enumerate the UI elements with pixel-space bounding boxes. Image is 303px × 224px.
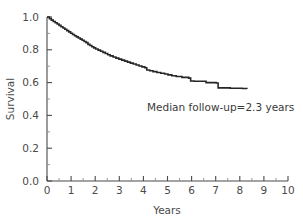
y-tick-label: 0.0 (22, 175, 39, 187)
survival-chart: 0.00.20.40.60.81.0 012345678910 Years Su… (0, 0, 303, 224)
x-tick-label: 8 (236, 184, 243, 196)
x-tick-label: 3 (116, 184, 123, 196)
x-tick-label: 0 (44, 184, 51, 196)
x-tick-label: 1 (68, 184, 75, 196)
x-tick-label: 7 (212, 184, 219, 196)
x-tick-label: 4 (140, 184, 147, 196)
x-axis-title: Years (152, 204, 181, 216)
x-tick-label: 5 (164, 184, 171, 196)
x-tick-label: 9 (261, 184, 268, 196)
y-tick-label: 0.6 (22, 76, 39, 88)
median-followup-annotation: Median follow-up=2.3 years (147, 101, 294, 113)
y-tick-label: 1.0 (22, 11, 39, 23)
x-tick-label: 10 (281, 184, 294, 196)
x-tick-label: 2 (92, 184, 99, 196)
y-tick-label: 0.2 (22, 142, 39, 154)
y-axis-title: Survival (4, 78, 16, 120)
chart-canvas: 0.00.20.40.60.81.0 012345678910 Years Su… (0, 0, 303, 224)
x-tick-label: 6 (188, 184, 195, 196)
y-tick-label: 0.8 (22, 43, 39, 55)
y-tick-label: 0.4 (22, 109, 39, 121)
